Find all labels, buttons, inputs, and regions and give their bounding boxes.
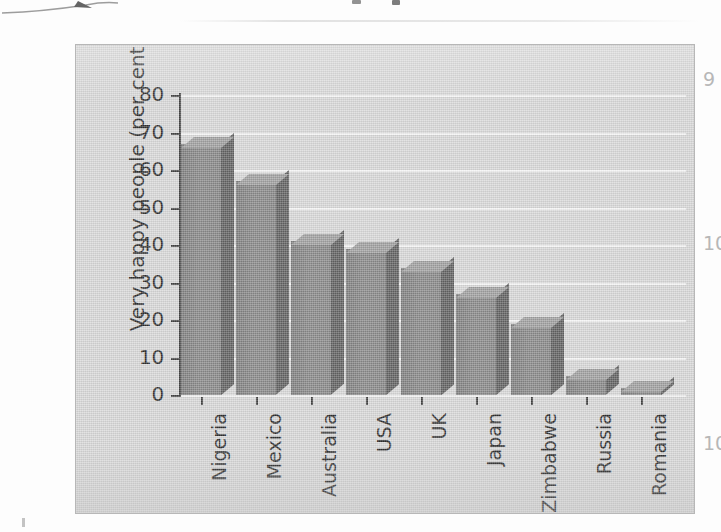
- scan-artifact-bottom-tick: [22, 518, 25, 527]
- margin-number-2: 10: [703, 232, 721, 254]
- bar-top-cap: [401, 257, 454, 268]
- bar-top-cap: [621, 377, 674, 388]
- gridline: [181, 95, 686, 97]
- scan-artifact-mark-left: [352, 0, 361, 4]
- x-axis-label-mexico: Mexico: [263, 413, 285, 479]
- bar-top-cap: [511, 313, 564, 324]
- y-axis-title: Very happy people (per cent): [125, 44, 149, 350]
- bar-front-face: [291, 241, 331, 395]
- margin-number-1: 9: [703, 68, 721, 90]
- x-axis-tick: [311, 397, 313, 405]
- bar-front-face: [401, 268, 441, 396]
- y-axis-tick: [171, 170, 180, 172]
- y-axis-tick: [171, 395, 180, 397]
- x-axis-label-russia: Russia: [593, 413, 615, 474]
- y-axis-tick: [171, 358, 180, 360]
- x-axis-label-japan: Japan: [483, 413, 505, 466]
- bar-top-cap: [236, 170, 289, 181]
- scan-artifact-swoosh: [0, 0, 120, 14]
- bar-top-cap: [181, 133, 234, 144]
- bar-uk: [401, 259, 441, 396]
- bar-top-cap: [291, 230, 344, 241]
- plot-area: [181, 95, 686, 395]
- bar-right-face: [386, 238, 399, 395]
- bar-right-face: [331, 230, 344, 395]
- y-axis-tick-label: 0: [110, 382, 164, 406]
- x-axis-tick: [366, 397, 368, 405]
- margin-number-3: 10: [703, 432, 721, 454]
- bar-top-cap: [566, 365, 619, 376]
- bar-australia: [291, 232, 331, 395]
- bar-right-face: [276, 170, 289, 395]
- y-axis-tick: [171, 245, 180, 247]
- bar-usa: [346, 240, 386, 395]
- x-axis-label-australia: Australia: [318, 413, 340, 497]
- scan-artifact-mark-right: [392, 0, 400, 5]
- x-axis-tick: [421, 397, 423, 405]
- bar-front-face: [181, 144, 221, 395]
- y-axis-tick: [171, 208, 180, 210]
- y-axis-tick: [171, 95, 180, 97]
- x-axis-label-nigeria: Nigeria: [208, 413, 230, 481]
- y-axis-tick: [171, 320, 180, 322]
- bar-top-cap: [346, 238, 399, 249]
- bar-japan: [456, 285, 496, 395]
- x-axis-tick: [201, 397, 203, 405]
- bar-mexico: [236, 172, 276, 395]
- bar-russia: [566, 367, 606, 395]
- bar-right-face: [221, 133, 234, 395]
- x-axis-label-usa: USA: [373, 413, 395, 452]
- bar-front-face: [511, 324, 551, 395]
- x-axis-label-romania: Romania: [648, 413, 670, 496]
- bar-front-face: [346, 249, 386, 395]
- x-axis-label-zimbabwe: Zimbabwe: [538, 413, 560, 513]
- bar-right-face: [441, 257, 454, 396]
- y-axis-tick: [171, 133, 180, 135]
- bar-front-face: [456, 294, 496, 395]
- x-axis-tick: [586, 397, 588, 405]
- bar-front-face: [236, 181, 276, 395]
- bar-zimbabwe: [511, 315, 551, 395]
- bar-nigeria: [181, 135, 221, 395]
- y-axis-tick: [171, 283, 180, 285]
- x-axis-tick: [256, 397, 258, 405]
- x-axis-label-uk: UK: [428, 413, 450, 439]
- bar-top-cap: [456, 283, 509, 294]
- x-axis-tick: [476, 397, 478, 405]
- bar-chart-figure: 80706050403020100 Very happy people (per…: [75, 44, 695, 514]
- x-axis-tick: [641, 397, 643, 405]
- scan-artifact-line: [180, 20, 700, 22]
- bar-right-face: [496, 283, 509, 395]
- bar-romania: [621, 379, 661, 396]
- x-axis-tick: [531, 397, 533, 405]
- gridline: [181, 133, 686, 135]
